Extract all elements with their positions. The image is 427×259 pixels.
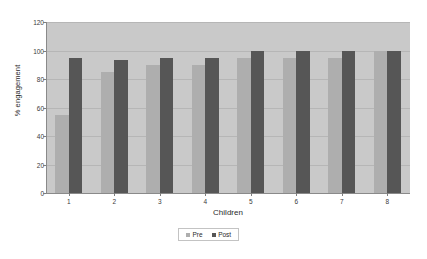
bar-post-3	[160, 58, 174, 193]
bar-pre-4	[192, 65, 206, 193]
y-tick-label: 20	[4, 161, 44, 168]
x-tick-mark	[205, 193, 206, 196]
y-tick-label: 0	[4, 190, 44, 197]
x-tick-mark	[296, 193, 297, 196]
y-tick-label: 60	[4, 104, 44, 111]
y-tick-label: 80	[4, 76, 44, 83]
bar-pre-8	[374, 51, 388, 194]
x-tick-mark	[387, 193, 388, 196]
x-tick-label: 3	[158, 198, 162, 205]
bar-pre-5	[237, 58, 251, 193]
legend-swatch-pre-icon	[186, 233, 190, 237]
bar-post-2	[114, 60, 128, 193]
bar-group	[192, 22, 219, 193]
bar-post-7	[342, 51, 356, 194]
x-tick-label: 4	[203, 198, 207, 205]
bar-post-1	[69, 58, 83, 193]
legend-label-post: Post	[218, 231, 231, 238]
bar-post-5	[251, 51, 265, 194]
y-axis-ticks: 020406080100120	[0, 0, 44, 259]
y-tick-label: 40	[4, 133, 44, 140]
bar-group	[374, 22, 401, 193]
x-axis-line	[46, 193, 410, 194]
x-tick-label: 8	[385, 198, 389, 205]
bar-post-4	[205, 58, 219, 193]
bar-group	[237, 22, 264, 193]
bar-post-6	[296, 51, 310, 194]
legend-item-pre: Pre	[186, 231, 203, 238]
x-tick-label: 5	[249, 198, 253, 205]
x-tick-mark	[160, 193, 161, 196]
y-tick-label: 120	[4, 19, 44, 26]
bar-group	[55, 22, 82, 193]
legend-swatch-post-icon	[212, 233, 216, 237]
y-tick-label: 100	[4, 47, 44, 54]
x-tick-label: 1	[67, 198, 71, 205]
x-tick-label: 2	[112, 198, 116, 205]
x-tick-mark	[342, 193, 343, 196]
legend-item-post: Post	[212, 231, 232, 238]
bars-layer	[46, 22, 410, 193]
bar-group	[101, 22, 128, 193]
x-tick-mark	[251, 193, 252, 196]
x-tick-label: 7	[340, 198, 344, 205]
bar-pre-3	[146, 65, 160, 193]
x-tick-mark	[69, 193, 70, 196]
bar-pre-1	[55, 115, 69, 193]
x-axis-title: Children	[46, 208, 410, 217]
bar-chart: % engagement 020406080100120 12345678 Ch…	[0, 0, 427, 259]
bar-pre-7	[328, 58, 342, 193]
legend: Pre Post	[178, 228, 239, 241]
bar-group	[283, 22, 310, 193]
bar-pre-6	[283, 58, 297, 193]
bar-group	[328, 22, 355, 193]
bar-group	[146, 22, 173, 193]
bar-pre-2	[101, 72, 115, 193]
x-tick-mark	[114, 193, 115, 196]
legend-label-pre: Pre	[193, 231, 203, 238]
x-tick-label: 6	[294, 198, 298, 205]
bar-post-8	[387, 51, 401, 194]
